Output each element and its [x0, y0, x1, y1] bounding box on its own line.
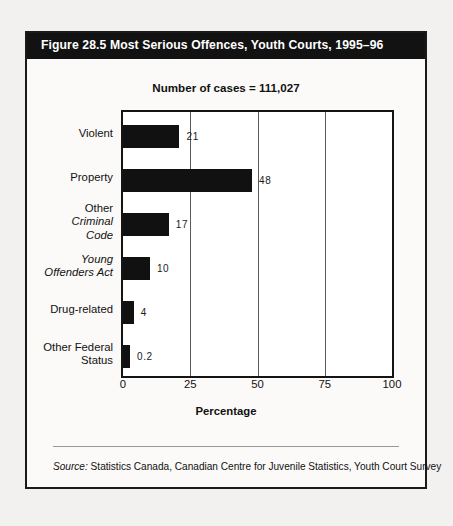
category-label-line: Young [44, 253, 113, 267]
plot-area: 2148171040.2 [121, 110, 394, 378]
figure-subtitle: Number of cases = 111,027 [27, 81, 425, 94]
category-label-line: Drug-related [50, 303, 113, 317]
category-label-line: Violent [79, 127, 113, 141]
bar-value-label: 17 [176, 219, 188, 230]
bar-value-label: 10 [157, 263, 169, 274]
bar [123, 301, 134, 324]
category-axis-labels: ViolentPropertyOtherCriminalCodeYoungOff… [27, 110, 119, 374]
footer-divider [53, 446, 399, 447]
category-label-line: Offenders Act [44, 266, 113, 280]
bar-value-label: 0.2 [137, 351, 153, 362]
figure-title-bar: Figure 28.5 Most Serious Offences, Youth… [27, 33, 425, 59]
category-label-young-offenders-act: YoungOffenders Act [44, 253, 113, 280]
category-label-violent: Violent [79, 127, 113, 141]
category-label-line: Code [72, 229, 113, 243]
x-tick-label-50: 50 [251, 378, 264, 390]
category-label-line: Status [43, 354, 113, 368]
bar [123, 125, 179, 148]
category-label-drug-related: Drug-related [50, 303, 113, 317]
bar [123, 345, 130, 368]
category-label-line: Property [70, 171, 113, 185]
source-note: Source: Statistics Canada, Canadian Cent… [53, 461, 415, 472]
category-label-property: Property [70, 171, 113, 185]
bar-value-label: 4 [141, 307, 147, 318]
bar-row: 4 [123, 301, 392, 324]
bar-row: 10 [123, 257, 392, 280]
bar [123, 257, 150, 280]
category-label-line: Criminal [72, 215, 113, 229]
category-label-line: Other [72, 202, 113, 216]
gridline-25 [190, 112, 191, 376]
figure-container: Figure 28.5 Most Serious Offences, Youth… [25, 31, 427, 489]
figure-title: Figure 28.5 Most Serious Offences, Youth… [41, 38, 383, 52]
bar-row: 48 [123, 169, 392, 192]
x-tick-label-25: 25 [184, 378, 197, 390]
x-axis-tick-labels: 0255075100 [121, 378, 390, 394]
category-label-line: Other Federal [43, 341, 113, 355]
bar-row: 17 [123, 213, 392, 236]
category-label-other-criminal-code: OtherCriminalCode [72, 202, 113, 243]
bar-row: 0.2 [123, 345, 392, 368]
source-body: Statistics Canada, Canadian Centre for J… [88, 461, 441, 472]
gridline-75 [325, 112, 326, 376]
bar-value-label: 48 [259, 175, 271, 186]
x-axis-title: Percentage [27, 405, 425, 417]
bar-value-label: 21 [186, 131, 198, 142]
x-tick-label-75: 75 [318, 378, 331, 390]
gridline-50 [258, 112, 259, 376]
source-label: Source: [53, 461, 88, 472]
x-tick-label-0: 0 [120, 378, 126, 390]
bar [123, 213, 169, 236]
category-label-other-federal-status: Other FederalStatus [43, 341, 113, 368]
x-tick-label-100: 100 [383, 378, 402, 390]
bar [123, 169, 252, 192]
bar-row: 21 [123, 125, 392, 148]
